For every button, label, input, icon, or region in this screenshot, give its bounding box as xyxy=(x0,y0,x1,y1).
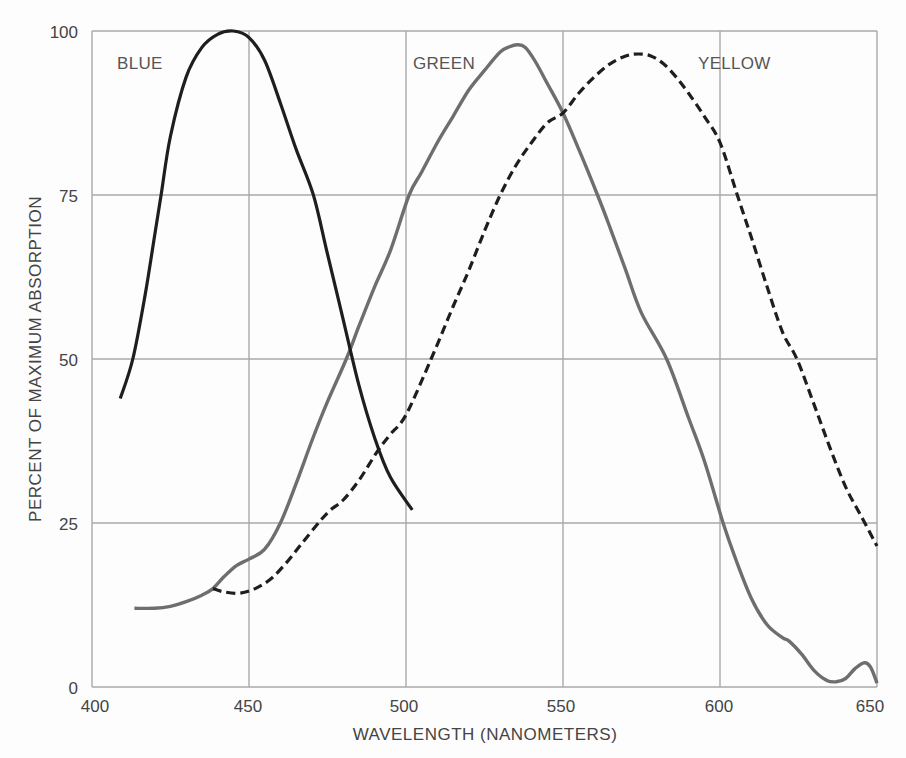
y-tick-25: 25 xyxy=(59,515,78,534)
series-label-blue: BLUE xyxy=(117,54,163,73)
x-tick-450: 450 xyxy=(234,697,262,716)
y-tick-75: 75 xyxy=(59,187,78,206)
absorption-chart: 100 75 50 25 0 400 450 500 550 600 650 W… xyxy=(0,0,906,758)
y-tick-50: 50 xyxy=(59,351,78,370)
curve-green xyxy=(134,45,877,683)
series-label-yellow: YELLOW xyxy=(698,54,771,73)
y-axis-title: PERCENT OF MAXIMUM ABSORPTION xyxy=(26,196,45,522)
x-tick-600: 600 xyxy=(705,697,733,716)
x-tick-550: 550 xyxy=(547,697,575,716)
x-tick-400: 400 xyxy=(81,697,109,716)
x-tick-650: 650 xyxy=(856,697,884,716)
series-label-green: GREEN xyxy=(413,54,475,73)
x-tick-500: 500 xyxy=(390,697,418,716)
x-axis-title: WAVELENGTH (NANOMETERS) xyxy=(353,725,618,744)
curve-yellow xyxy=(213,54,877,593)
grid-lines xyxy=(92,31,877,687)
y-tick-0: 0 xyxy=(69,679,78,698)
y-tick-100: 100 xyxy=(50,23,78,42)
curve-blue xyxy=(120,31,412,510)
data-curves xyxy=(120,31,877,683)
